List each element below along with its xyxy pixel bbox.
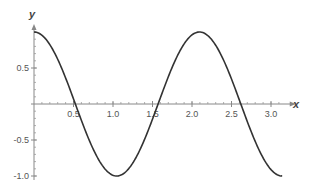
chart: 0.5-0.5-1.0 0.51.01.52.02.53.0 x y [0, 0, 315, 193]
x-tick-label: 3.0 [265, 109, 278, 119]
x-tick-label: 2.0 [186, 109, 199, 119]
y-axis-label: y [28, 8, 36, 20]
x-tick-label: 2.5 [225, 109, 238, 119]
y-tick-label: 0.5 [16, 63, 29, 73]
x-axis: 0.51.01.52.02.53.0 [31, 101, 296, 119]
x-tick-label: 1.0 [107, 109, 120, 119]
x-axis-label: x [292, 98, 300, 110]
y-tick-label: -1.0 [13, 171, 29, 181]
y-axis: 0.5-0.5-1.0 [13, 24, 37, 181]
y-tick-label: -0.5 [13, 135, 29, 145]
